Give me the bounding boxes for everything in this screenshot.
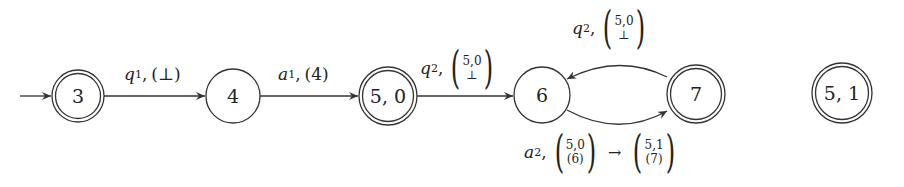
vector-to: ( 5,1(7) )	[629, 130, 678, 174]
state-4: 4	[206, 69, 260, 123]
edge-label-7-6: q2, ( 5,0⊥ )	[572, 6, 649, 50]
svg-text:5, 0: 5, 0	[370, 85, 406, 107]
edge-label-3-4: q1,(⊥)	[124, 64, 181, 84]
svg-text:7: 7	[690, 83, 702, 105]
edge-7-6	[567, 65, 667, 79]
svg-text:5, 1: 5, 1	[824, 82, 860, 104]
edge-label-6-7: a2, ( 5,0(6) ) → ( 5,1(7) )	[524, 130, 679, 174]
svg-text:6: 6	[536, 84, 548, 106]
svg-text:3: 3	[72, 85, 84, 107]
state-3: 3	[52, 70, 104, 122]
svg-text:4: 4	[227, 85, 239, 107]
state-7: 7	[667, 65, 725, 123]
vector: ( 5,0⊥ )	[447, 46, 496, 90]
edge-6-7	[567, 110, 667, 124]
edge-label-5-0-6: q2, ( 5,0⊥ )	[420, 46, 497, 90]
vector-from: ( 5,0(6) )	[551, 130, 600, 174]
edge-label-4-5-0: a1,(4)	[278, 64, 329, 84]
automaton-diagram: 3 4 5, 0 6 7 5, 1	[0, 0, 904, 187]
state-6: 6	[514, 67, 570, 123]
state-5-1: 5, 1	[812, 63, 872, 123]
state-5-0: 5, 0	[359, 67, 417, 125]
vector: ( 5,0⊥ )	[599, 6, 648, 50]
right-arrow-icon: →	[608, 143, 621, 162]
